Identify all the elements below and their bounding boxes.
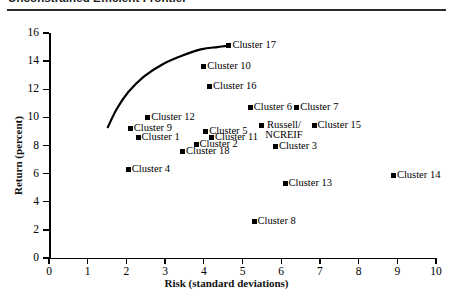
y-tick-label: 6 bbox=[13, 168, 39, 180]
x-tick-label: 6 bbox=[269, 266, 293, 278]
y-tick bbox=[43, 173, 49, 174]
point-label: Cluster 4 bbox=[132, 164, 170, 175]
point-marker bbox=[207, 84, 212, 89]
y-axis-title: Return (percent) bbox=[12, 116, 24, 195]
y-tick-label: 4 bbox=[13, 196, 39, 208]
x-axis-title: Risk (standard deviations) bbox=[0, 277, 453, 289]
point-marker bbox=[273, 144, 278, 149]
x-tick-label: 3 bbox=[153, 266, 177, 278]
x-tick bbox=[435, 258, 436, 264]
x-tick bbox=[203, 258, 204, 264]
x-tick bbox=[164, 258, 165, 264]
point-label: Cluster 10 bbox=[207, 61, 250, 72]
x-tick-label: 9 bbox=[385, 266, 409, 278]
point-label: Cluster 3 bbox=[279, 141, 317, 152]
y-tick bbox=[43, 117, 49, 118]
x-tick-label: 4 bbox=[192, 266, 216, 278]
y-tick-label: 12 bbox=[13, 83, 39, 95]
x-tick bbox=[281, 258, 282, 264]
x-tick-label: 1 bbox=[76, 266, 100, 278]
point-marker bbox=[259, 123, 264, 128]
x-tick bbox=[242, 258, 243, 264]
y-axis-line bbox=[49, 33, 51, 259]
point-marker bbox=[203, 129, 208, 134]
point-label: Cluster 12 bbox=[151, 112, 194, 123]
x-tick bbox=[319, 258, 320, 264]
x-tick-label: 5 bbox=[231, 266, 255, 278]
point-marker bbox=[180, 149, 185, 154]
point-label: Cluster 7 bbox=[300, 102, 338, 113]
y-tick-label: 0 bbox=[13, 252, 39, 264]
chart-container: Unconstrained Efficient Frontier Return … bbox=[0, 0, 453, 294]
x-tick-label: 2 bbox=[114, 266, 138, 278]
point-marker bbox=[145, 115, 150, 120]
y-tick bbox=[43, 32, 49, 33]
point-label: Cluster 6 bbox=[254, 102, 292, 113]
point-label: Cluster 1 bbox=[142, 132, 180, 143]
y-tick bbox=[43, 89, 49, 90]
point-label: Cluster 15 bbox=[318, 120, 361, 131]
y-tick bbox=[43, 201, 49, 202]
x-tick bbox=[358, 258, 359, 264]
point-label: Cluster 17 bbox=[232, 40, 275, 51]
point-marker bbox=[128, 126, 133, 131]
y-tick bbox=[43, 145, 49, 146]
point-marker bbox=[252, 219, 257, 224]
y-tick-label: 10 bbox=[13, 111, 39, 123]
y-tick-label: 2 bbox=[13, 224, 39, 236]
point-marker bbox=[226, 43, 231, 48]
point-marker bbox=[283, 181, 288, 186]
point-marker bbox=[248, 105, 253, 110]
chart-title: Unconstrained Efficient Frontier bbox=[8, 0, 187, 4]
point-label: Cluster 8 bbox=[258, 216, 296, 227]
x-tick-label: 7 bbox=[308, 266, 332, 278]
point-marker bbox=[201, 64, 206, 69]
point-label: Cluster 13 bbox=[289, 178, 332, 189]
x-tick-label: 10 bbox=[424, 266, 448, 278]
point-marker bbox=[136, 135, 141, 140]
x-tick bbox=[126, 258, 127, 264]
x-tick bbox=[87, 258, 88, 264]
point-label: Cluster 16 bbox=[213, 81, 256, 92]
point-label: Cluster 14 bbox=[397, 170, 440, 181]
x-tick-label: 0 bbox=[37, 266, 61, 278]
x-tick bbox=[397, 258, 398, 264]
point-marker bbox=[294, 105, 299, 110]
point-label: Cluster 18 bbox=[186, 146, 229, 157]
point-marker bbox=[312, 123, 317, 128]
x-tick-label: 8 bbox=[347, 266, 371, 278]
point-marker bbox=[391, 173, 396, 178]
y-tick-label: 8 bbox=[13, 140, 39, 152]
x-tick bbox=[48, 258, 49, 264]
point-label: Russell/NCREIF bbox=[265, 120, 302, 140]
y-tick-label: 14 bbox=[13, 55, 39, 67]
y-tick-label: 16 bbox=[13, 27, 39, 39]
y-tick bbox=[43, 60, 49, 61]
header-rule bbox=[7, 9, 446, 11]
y-tick bbox=[43, 229, 49, 230]
point-marker bbox=[126, 167, 131, 172]
